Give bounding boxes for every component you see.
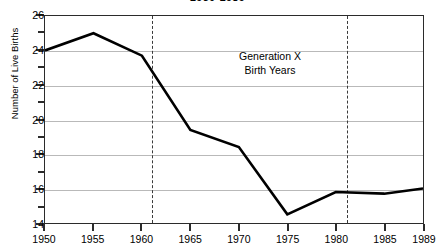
- generation-x-annotation: Generation X Birth Years: [195, 49, 345, 77]
- series-line-births: [45, 16, 423, 223]
- y-axis-label-18: 18: [4, 149, 44, 159]
- annotation-line-2: Birth Years: [195, 63, 345, 77]
- x-axis-label-1980: 1980: [313, 233, 359, 245]
- x-tick-1955: [92, 224, 94, 231]
- x-axis-label-1960: 1960: [118, 233, 164, 245]
- y-axis-label-24: 24: [4, 45, 44, 55]
- x-axis-label-1989: 1989: [401, 233, 440, 245]
- x-axis-label-1955: 1955: [70, 233, 116, 245]
- y-axis-label-22: 22: [4, 80, 44, 90]
- x-axis-label-1950: 1950: [21, 233, 67, 245]
- y-axis-label-20: 20: [4, 115, 44, 125]
- x-axis-label-1970: 1970: [216, 233, 262, 245]
- x-tick-1970: [238, 224, 240, 231]
- plot-area: Generation X Birth Years: [44, 15, 424, 224]
- x-axis-label-1965: 1965: [167, 233, 213, 245]
- annotation-line-1: Generation X: [195, 49, 345, 63]
- chart-title: 1950-1989: [0, 0, 435, 4]
- x-axis-label-1975: 1975: [265, 233, 311, 245]
- x-tick-1950: [43, 224, 45, 231]
- x-tick-1965: [189, 224, 191, 231]
- x-tick-1985: [384, 224, 386, 231]
- x-tick-1980: [335, 224, 337, 231]
- y-axis-label-26: 26: [4, 10, 44, 20]
- y-axis-label-14: 14: [4, 219, 44, 229]
- x-tick-1989: [423, 224, 425, 231]
- x-tick-1960: [140, 224, 142, 231]
- x-tick-1975: [287, 224, 289, 231]
- y-axis-label-16: 16: [4, 184, 44, 194]
